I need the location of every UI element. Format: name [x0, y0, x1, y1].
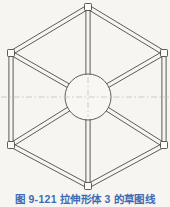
hexagonal-frame-drawing — [0, 0, 170, 192]
figure-panel: 图 9-121 拉伸形体 3 的草图线 — [0, 0, 170, 207]
figure-caption: 图 9-121 拉伸形体 3 的草图线 — [0, 192, 170, 207]
